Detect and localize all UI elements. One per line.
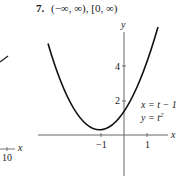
equation-x: x = t − 1	[140, 99, 177, 110]
y-tick-label-4: 4	[115, 61, 120, 72]
parametric-plot: 10 x x y −1 1 4 2 x = t − 1 y = t2	[0, 0, 186, 176]
y-tick-label-2: 2	[115, 95, 120, 106]
y-axis-label: y	[120, 19, 126, 30]
x-tick-label-1: 1	[145, 139, 150, 150]
neighbor-x-label: x	[17, 142, 23, 153]
neighbor-tick-label: 10	[2, 152, 12, 163]
equation-y: y = t2	[140, 111, 164, 123]
x-axis-label: x	[170, 129, 176, 140]
neighbor-curve-fragment	[0, 56, 8, 62]
x-tick-label-neg1: −1	[96, 139, 107, 150]
